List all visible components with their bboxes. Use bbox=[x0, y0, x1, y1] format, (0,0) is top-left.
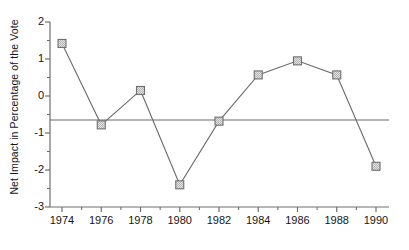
data-line bbox=[62, 43, 376, 184]
data-point-marker bbox=[333, 71, 341, 79]
data-point-marker bbox=[58, 39, 66, 47]
data-point-marker bbox=[137, 86, 145, 94]
data-point-marker bbox=[97, 121, 105, 129]
data-point-marker bbox=[176, 181, 184, 189]
plot-area bbox=[0, 0, 409, 250]
data-point-marker bbox=[215, 117, 223, 125]
chart-container: Net Impact in Percentage of the Vote 210… bbox=[0, 0, 409, 250]
data-point-marker bbox=[294, 57, 302, 65]
data-point-marker bbox=[372, 162, 380, 170]
data-point-marker bbox=[254, 71, 262, 79]
